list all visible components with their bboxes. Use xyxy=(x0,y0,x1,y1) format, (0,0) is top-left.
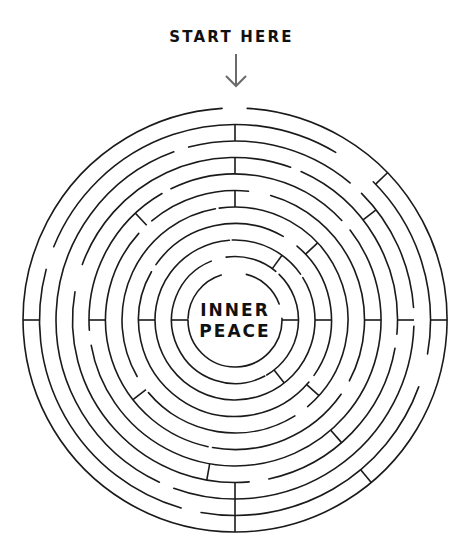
maze-wall xyxy=(361,470,372,483)
maze-ring-arc xyxy=(271,196,365,381)
goal-label-line1: INNER xyxy=(188,300,282,321)
goal-label: INNER PEACE xyxy=(188,300,282,342)
maze-ring-arc xyxy=(56,152,174,482)
maze-ring-arc xyxy=(226,257,276,272)
maze-wall xyxy=(307,385,319,396)
maze-ring-arc xyxy=(201,387,419,516)
maze-wall xyxy=(272,255,282,268)
maze-wall xyxy=(363,210,376,220)
maze-ring-arc xyxy=(89,194,162,331)
maze-wall xyxy=(133,390,146,400)
maze-ring-arc xyxy=(301,172,397,335)
maze-wall xyxy=(135,213,146,225)
circular-maze[interactable] xyxy=(0,0,463,546)
maze-wall xyxy=(274,370,284,383)
maze-ring-arc xyxy=(91,230,381,466)
maze-ring-arc xyxy=(82,157,290,264)
maze-ring-arc xyxy=(156,224,283,265)
maze-ring-arc xyxy=(152,191,249,221)
maze-ring-arc xyxy=(39,269,181,508)
maze-wall xyxy=(376,173,388,184)
maze-ring-arc xyxy=(362,193,414,307)
maze-ring-arc xyxy=(213,394,342,449)
maze-ring-arc xyxy=(269,348,395,479)
maze-wall xyxy=(331,430,342,442)
maze-ring-arc xyxy=(373,182,430,354)
goal-label-line2: PEACE xyxy=(188,321,282,342)
maze-wall xyxy=(306,243,318,254)
maze-ring-arc xyxy=(139,272,309,417)
maze-ring-arc xyxy=(122,209,215,377)
maze-wall xyxy=(207,464,210,480)
